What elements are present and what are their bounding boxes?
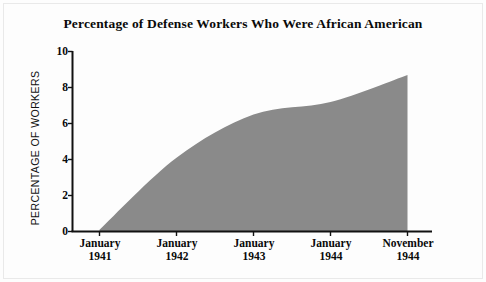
plot-area: PERCENTAGE OF WORKERS 10 8 6 4 2 0 Janua… <box>0 0 486 282</box>
area-series-path <box>100 75 408 232</box>
x-tick-year-nov-1944: 1944 <box>348 250 468 263</box>
chart-figure: Percentage of Defense Workers Who Were A… <box>0 0 486 282</box>
x-tick-month-jan-1941: January <box>80 237 121 249</box>
x-tick-month-nov-1944: November <box>382 237 433 249</box>
x-tick-month-jan-1942: January <box>157 237 198 249</box>
x-tick-month-jan-1943: January <box>234 237 275 249</box>
x-tick-label-nov-1944: November 1944 <box>348 237 468 262</box>
x-tick-month-jan-1944: January <box>311 237 352 249</box>
